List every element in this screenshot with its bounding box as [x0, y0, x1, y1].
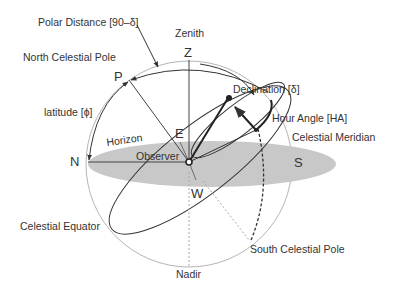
point-n-label: N — [70, 154, 79, 169]
observer-label: Observer — [136, 150, 180, 162]
meridian-point — [254, 128, 258, 132]
latitude-label: latitude [ϕ] — [44, 106, 93, 118]
hour-angle-arc — [235, 107, 256, 130]
north-celestial-pole-label: North Celestial Pole — [23, 51, 116, 63]
point-s-label: S — [294, 155, 303, 170]
hour-angle-label: Hour Angle [HA] — [272, 112, 347, 124]
point-p-label: P — [114, 69, 123, 84]
south-axis-line — [203, 181, 249, 240]
celestial-equator-label: Celestial Equator — [20, 220, 100, 232]
declination-label: Declination [δ] — [233, 83, 300, 95]
polar-distance-label: Polar Distance [90–δ] — [38, 16, 138, 28]
celestial-sphere-diagram: Polar Distance [90–δ] Zenith North Celes… — [0, 0, 395, 293]
point-e-label: E — [175, 126, 184, 141]
point-z-label: Z — [184, 45, 192, 60]
star-dot — [226, 95, 232, 101]
horizon-label: Horizon — [106, 131, 144, 148]
point-w-label: W — [191, 186, 204, 201]
nadir-label: Nadir — [176, 268, 202, 280]
celestial-meridian-label: Celestial Meridian — [292, 131, 376, 143]
polar-distance-pointer — [137, 25, 158, 67]
hour-angle-arc-2 — [256, 100, 272, 130]
zenith-label: Zenith — [175, 27, 204, 39]
observer-marker — [186, 159, 192, 165]
south-celestial-pole-label: South Celestial Pole — [250, 243, 345, 255]
